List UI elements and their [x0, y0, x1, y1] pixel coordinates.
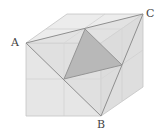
- label-c: C: [146, 8, 154, 19]
- label-a: A: [11, 37, 19, 48]
- cube-diagram: [0, 0, 159, 134]
- label-b: B: [97, 119, 105, 130]
